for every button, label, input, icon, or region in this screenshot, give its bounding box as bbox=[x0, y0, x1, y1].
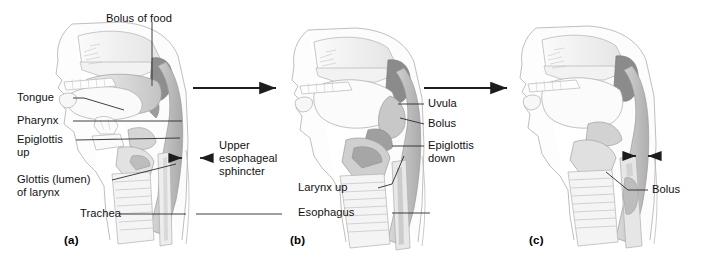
label-upper-esophageal-sphincter-line2: esophageal bbox=[219, 152, 277, 165]
label-epiglottis-up-line2: up bbox=[17, 146, 30, 159]
panel-b bbox=[240, 0, 470, 261]
label-upper-esophageal-sphincter-line3: sphincter bbox=[219, 165, 265, 178]
panel-tag-a: (a) bbox=[64, 234, 79, 246]
label-bolus-c: Bolus bbox=[652, 183, 680, 196]
panel-a-anatomy-illustration bbox=[0, 0, 240, 261]
panel-c bbox=[470, 0, 718, 261]
label-bolus-b: Bolus bbox=[428, 117, 456, 130]
panel-tag-c: (c) bbox=[529, 234, 544, 246]
label-glottis-lumen-line1: Glottis (lumen) bbox=[17, 173, 91, 186]
label-bolus-of-food: Bolus of food bbox=[106, 12, 172, 25]
label-esophagus: Esophagus bbox=[298, 206, 354, 219]
label-epiglottis-down-line1: Epiglottis bbox=[428, 139, 474, 152]
panel-c-anatomy-illustration bbox=[470, 0, 718, 261]
panel-a bbox=[0, 0, 240, 261]
label-tongue: Tongue bbox=[17, 91, 54, 104]
label-larynx-up: Larynx up bbox=[298, 181, 348, 194]
label-uvula: Uvula bbox=[428, 97, 457, 110]
panel-b-anatomy-illustration bbox=[240, 0, 470, 261]
label-pharynx: Pharynx bbox=[17, 114, 58, 127]
label-epiglottis-down-line2: down bbox=[428, 152, 455, 165]
panel-tag-b: (b) bbox=[290, 234, 305, 246]
label-upper-esophageal-sphincter-line1: Upper bbox=[219, 139, 250, 152]
swallowing-figure: Bolus of food Tongue Pharynx Epiglottis … bbox=[0, 0, 718, 261]
label-glottis-lumen-line2: of larynx bbox=[17, 186, 60, 199]
label-trachea: Trachea bbox=[80, 207, 121, 220]
label-epiglottis-up-line1: Epiglottis bbox=[17, 133, 63, 146]
